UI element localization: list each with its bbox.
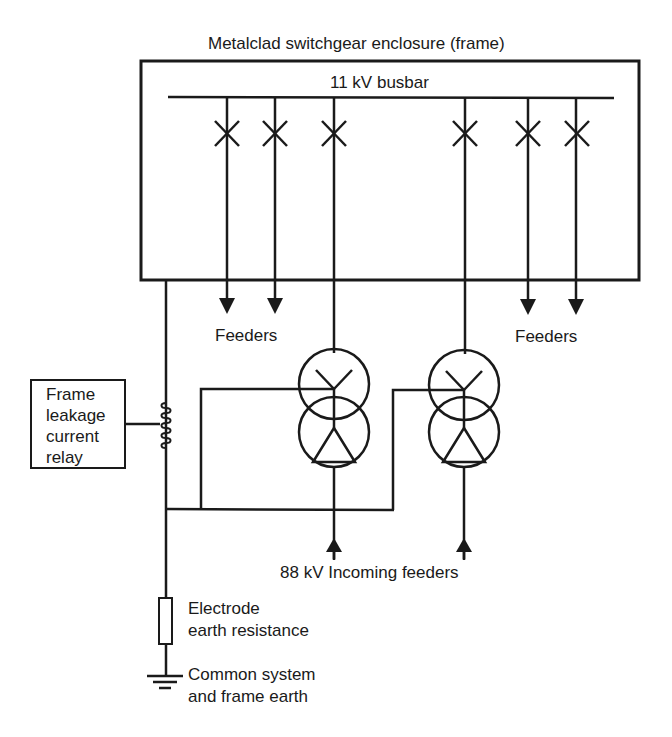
relay-label-line: relay xyxy=(46,447,106,468)
earth-ground-icon xyxy=(147,676,183,688)
busbar-label: 11 kV busbar xyxy=(330,73,429,93)
delta-winding-icon xyxy=(313,428,355,462)
relay-label-line: current xyxy=(46,426,106,447)
busbar-11kv xyxy=(168,97,614,98)
earth-resistance-icon xyxy=(159,598,172,644)
relay-label-line: Frame xyxy=(46,384,106,405)
frame-leakage-relay: Frame leakage current relay xyxy=(30,379,126,469)
delta-winding-icon xyxy=(443,428,485,462)
arrow-up-icon xyxy=(456,538,472,552)
feeders-left-label: Feeders xyxy=(215,326,277,346)
arrow-down-icon xyxy=(267,298,283,314)
switchgear-enclosure xyxy=(141,61,639,280)
common-earth-label: Common system and frame earth xyxy=(188,664,316,708)
neutral-bus xyxy=(166,509,394,510)
transformer-1 xyxy=(299,349,369,528)
earth-label-line: Common system xyxy=(188,664,316,686)
relay-label-line: leakage xyxy=(46,405,106,426)
earth-label-line: and frame earth xyxy=(188,686,316,708)
resistance-label-line: earth resistance xyxy=(188,620,309,642)
arrow-down-icon xyxy=(219,298,235,314)
incoming-feeders-label: 88 kV Incoming feeders xyxy=(280,563,459,583)
resistance-label-line: Electrode xyxy=(188,598,309,620)
arrow-up-icon xyxy=(326,538,342,552)
arrow-down-icon xyxy=(568,299,584,315)
feeders-right-label: Feeders xyxy=(515,327,577,347)
enclosure-label: Metalclad switchgear enclosure (frame) xyxy=(208,34,505,54)
neutral-link-t1 xyxy=(201,389,334,509)
diagram-canvas xyxy=(0,0,672,737)
arrow-down-icon xyxy=(520,299,536,315)
earth-resistance-label: Electrode earth resistance xyxy=(188,598,309,642)
neutral-link-t2 xyxy=(393,390,464,510)
transformer-2 xyxy=(429,350,499,548)
